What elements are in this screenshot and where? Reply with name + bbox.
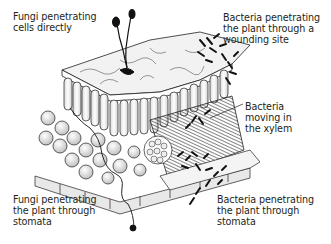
label-bacteria-through-stomata: Bacteria penetrating the plant through s… [217,194,314,227]
label-bacteria-wounding-site: Bacteria penetrating the plant through a… [223,12,320,45]
label-fungi-penetrating-cells-directly: Fungi penetrating cells directly [13,11,96,33]
label-bacteria-moving-in-xylem: Bacteria moving in the xylem [245,101,292,134]
label-fungi-through-stomata: Fungi penetrating the plant through stom… [13,194,96,227]
